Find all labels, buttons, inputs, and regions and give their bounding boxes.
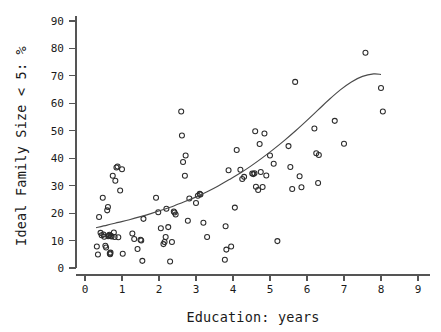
data-point — [100, 195, 105, 200]
data-point — [94, 244, 99, 249]
data-point — [234, 147, 239, 152]
data-point — [120, 251, 125, 256]
data-point — [222, 257, 227, 262]
y-tick-label-60: 60 — [51, 97, 64, 110]
data-point — [130, 231, 135, 236]
y-axis-title: Ideal Family Size < 5: % — [13, 46, 29, 246]
x-tick-label-3: 3 — [193, 283, 200, 296]
x-tick-label-9: 9 — [415, 283, 422, 296]
data-point — [95, 252, 100, 257]
y-tick-label-50: 50 — [51, 125, 64, 138]
data-point — [140, 258, 145, 263]
data-point — [182, 173, 187, 178]
data-point — [262, 131, 267, 136]
data-point — [166, 225, 171, 230]
data-point — [179, 109, 184, 114]
data-point — [223, 224, 228, 229]
y-tick-label-10: 10 — [51, 235, 64, 248]
data-point — [118, 188, 123, 193]
data-point — [110, 173, 115, 178]
data-point — [297, 174, 302, 179]
data-point — [132, 236, 137, 241]
x-tick-label-0: 0 — [82, 283, 89, 296]
data-point — [97, 214, 102, 219]
y-tick-label-0: 0 — [57, 262, 64, 275]
x-axis-title: Education: years — [186, 309, 319, 325]
y-tick-label-30: 30 — [51, 180, 64, 193]
scatter-chart: 0102030405060708090 0123456789 Education… — [0, 0, 441, 332]
data-point — [312, 126, 317, 131]
data-point — [316, 180, 321, 185]
data-point — [135, 247, 140, 252]
x-tick-label-8: 8 — [378, 283, 385, 296]
y-tick-label-20: 20 — [51, 207, 64, 220]
data-point — [380, 109, 385, 114]
x-tick-label-5: 5 — [267, 283, 274, 296]
data-point — [271, 161, 276, 166]
data-point — [224, 247, 229, 252]
data-point — [168, 259, 173, 264]
y-tick-label-70: 70 — [51, 70, 64, 83]
data-point — [232, 205, 237, 210]
x-tick-label-2: 2 — [156, 283, 163, 296]
data-point — [201, 220, 206, 225]
data-point — [253, 129, 258, 134]
x-axis: 0123456789 — [76, 275, 430, 296]
data-point — [154, 195, 159, 200]
data-point — [181, 160, 186, 165]
data-point — [229, 244, 234, 249]
data-point — [120, 167, 125, 172]
data-point — [158, 226, 163, 231]
y-axis: 0102030405060708090 — [51, 15, 76, 275]
data-point — [363, 50, 368, 55]
data-point — [260, 185, 265, 190]
x-tick-label-1: 1 — [119, 283, 126, 296]
data-point — [288, 164, 293, 169]
data-point — [286, 144, 291, 149]
data-point — [105, 205, 110, 210]
data-points-group — [94, 50, 385, 264]
data-point — [226, 168, 231, 173]
data-point — [113, 178, 118, 183]
data-point — [163, 234, 168, 239]
data-point — [275, 239, 280, 244]
data-point — [205, 234, 210, 239]
y-tick-label-90: 90 — [51, 15, 64, 28]
data-point — [342, 141, 347, 146]
data-point — [258, 169, 263, 174]
data-point — [379, 85, 384, 90]
data-point — [169, 239, 174, 244]
y-tick-label-40: 40 — [51, 152, 64, 165]
data-point — [332, 118, 337, 123]
data-point — [293, 79, 298, 84]
data-point — [116, 235, 121, 240]
data-point — [185, 218, 190, 223]
data-point — [299, 185, 304, 190]
y-tick-label-80: 80 — [51, 42, 64, 55]
data-point — [264, 173, 269, 178]
data-point — [179, 133, 184, 138]
x-tick-label-7: 7 — [341, 283, 348, 296]
data-point — [257, 141, 262, 146]
data-point — [290, 186, 295, 191]
data-point — [183, 153, 188, 158]
data-point — [194, 200, 199, 205]
x-tick-label-6: 6 — [304, 283, 311, 296]
data-point — [141, 216, 146, 221]
plot-canvas: 0102030405060708090 0123456789 Education… — [0, 0, 441, 332]
x-tick-label-4: 4 — [230, 283, 237, 296]
